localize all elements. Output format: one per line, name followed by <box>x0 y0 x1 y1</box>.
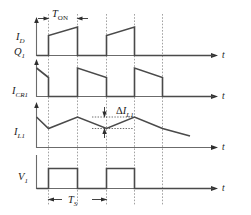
t-on-dimension-group: TON <box>38 8 88 22</box>
gridlines-group <box>49 14 163 205</box>
trace4-waveform <box>37 169 215 189</box>
trace3-vertical-axis-arrow <box>34 102 39 108</box>
trace3-waveform <box>37 117 191 136</box>
trace2-time-label: t <box>222 91 225 101</box>
trace2-vertical-axis-arrow <box>34 59 39 65</box>
trace2-label: ICR1 <box>11 85 28 99</box>
trace3-label: IL1 <box>13 126 25 140</box>
trace-v1-group: V1 t <box>18 155 225 193</box>
waveform-svg: ID Q1 t TON ICR1 t IL1 <box>0 0 251 215</box>
trace1-waveform <box>37 27 215 56</box>
delta-il1-label-sub: L1 <box>125 111 133 119</box>
trace2-waveform <box>37 68 215 97</box>
trace3-time-axis-arrow <box>211 145 218 150</box>
trace1-vertical-axis-arrow <box>34 17 39 23</box>
trace3-time-label: t <box>222 142 225 152</box>
trace1-time-label: t <box>222 50 225 60</box>
trace1-label-id: ID <box>15 31 25 45</box>
t-on-right-arrow <box>77 16 83 20</box>
trace2-label-sub: CR1 <box>16 91 28 99</box>
delta-il1-label: ΔIL1 <box>116 105 134 119</box>
t-on-label-sub: ON <box>58 14 68 22</box>
trace4-label-sub: 1 <box>24 177 28 185</box>
t-on-left-arrow <box>44 16 50 20</box>
t-on-label: TON <box>52 8 68 22</box>
trace-icr1-group: ICR1 t <box>11 59 225 101</box>
delta-il1-upper-arrowhead <box>102 112 106 119</box>
trace4-label: V1 <box>18 171 28 185</box>
t-s-label-sub: S <box>74 200 78 208</box>
t-s-label: TS <box>68 194 78 208</box>
trace-id-q1-group: ID Q1 t <box>14 17 225 60</box>
trace1-label-q1: Q1 <box>14 46 25 60</box>
trace3-label-sub: L1 <box>17 132 25 140</box>
delta-il1-annotation-group: ΔIL1 <box>92 105 134 138</box>
waveform-figure: ID Q1 t TON ICR1 t IL1 <box>0 0 251 215</box>
trace1-label-q1-sub: 1 <box>22 52 26 60</box>
trace1-label-id-sub: D <box>19 37 25 45</box>
trace4-time-label: t <box>222 183 225 193</box>
